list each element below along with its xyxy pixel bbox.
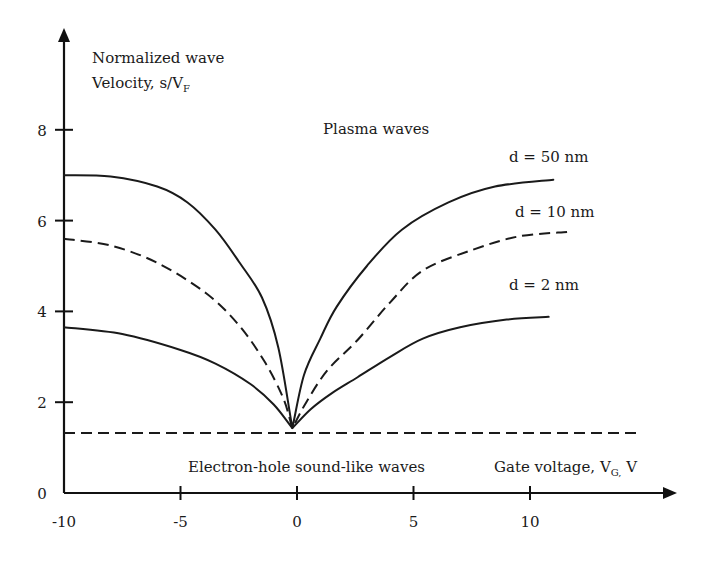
x-tick-label: 0 (292, 513, 302, 531)
x-axis-title: Gate voltage, VG, V (494, 458, 638, 478)
y-axis-title-subscript: F (183, 83, 190, 94)
series-line-d-10-nm (64, 232, 567, 428)
x-axis-arrow-icon (663, 487, 677, 499)
annotation-electron-hole-waves: Electron-hole sound-like waves (188, 458, 425, 476)
y-tick-label: 6 (37, 213, 47, 231)
y-axis-title-line2: Velocity, s/VF (91, 74, 190, 94)
y-axis-title-main: Velocity, s/V (91, 74, 184, 92)
x-axis-title-main: Gate voltage, V (494, 458, 612, 476)
annotation-plasma-waves: Plasma waves (323, 120, 429, 138)
series-label-d10: d = 10 nm (515, 203, 594, 221)
y-axis-title-line1: Normalized wave (92, 49, 224, 67)
series-label-d2: d = 2 nm (509, 276, 579, 294)
y-tick-label: 4 (37, 303, 47, 321)
x-tick-label: 5 (409, 513, 419, 531)
series-line-d-50-nm (64, 175, 553, 428)
y-tick-label: 0 (37, 485, 47, 503)
x-tick-label: -5 (173, 513, 188, 531)
x-axis-title-subscript: G, (611, 467, 622, 478)
series-label-d50: d = 50 nm (509, 148, 588, 166)
x-axis-title-unit: V (622, 458, 639, 476)
y-tick-label: 2 (37, 394, 47, 412)
x-tick-label: 10 (520, 513, 539, 531)
y-ticks: 02468 (37, 122, 73, 503)
y-tick-label: 8 (37, 122, 47, 140)
y-axis-arrow-icon (58, 28, 70, 42)
chart: -10-50510 02468 Normalized wave Velocity… (0, 0, 703, 562)
x-tick-label: -10 (52, 513, 76, 531)
series-line-d-2-nm (64, 317, 549, 428)
